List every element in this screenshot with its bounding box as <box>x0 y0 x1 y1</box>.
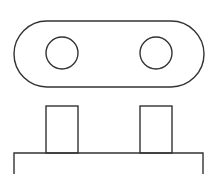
plug-diagram <box>0 0 220 174</box>
plug-face-outline <box>14 21 204 87</box>
pin-hole-left <box>46 37 78 69</box>
prong-left <box>46 106 78 153</box>
plug-body-outline <box>14 153 203 174</box>
prong-right <box>140 106 172 153</box>
pin-hole-right <box>140 37 172 69</box>
